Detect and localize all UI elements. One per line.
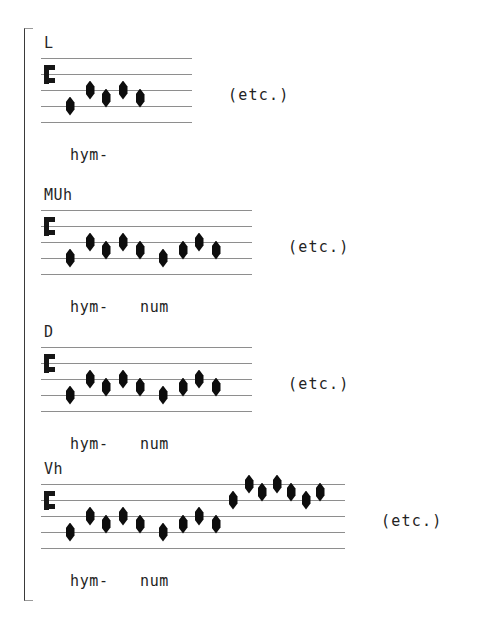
- staff-line: [41, 106, 192, 107]
- staff-line: [41, 210, 252, 211]
- lyric-syllable: hym-: [70, 148, 109, 163]
- lyric-syllable: num: [140, 437, 169, 452]
- clef-arm-bottom: [47, 230, 55, 235]
- staff-line: [41, 411, 252, 412]
- staff-line: [41, 58, 192, 59]
- staff: [41, 58, 192, 122]
- staff-line: [41, 500, 345, 501]
- staff-line: [41, 363, 252, 364]
- staff-line: [41, 379, 252, 380]
- staff-line: [41, 347, 252, 348]
- c-clef-icon: [44, 217, 55, 236]
- lyric-syllable: num: [140, 574, 169, 589]
- staff-line: [41, 532, 345, 533]
- staff: [41, 210, 252, 274]
- lyric-syllable: hym-: [70, 437, 109, 452]
- staff-line: [41, 548, 345, 549]
- music-figure: Lhym-(etc.)MUhhym-num(etc.)Dhym-num(etc.…: [0, 0, 485, 626]
- c-clef-icon: [44, 354, 55, 373]
- staff-line: [41, 74, 192, 75]
- staff: [41, 347, 252, 411]
- etc-marker: (etc.): [288, 377, 349, 392]
- c-clef-icon: [44, 65, 55, 84]
- clef-arm-top: [47, 217, 55, 222]
- staff-line: [41, 90, 192, 91]
- lyric-syllable: hym-: [70, 300, 109, 315]
- staff-line: [41, 484, 345, 485]
- staff-line: [41, 274, 252, 275]
- system-bracket: [24, 28, 33, 601]
- lyric-syllable: num: [140, 300, 169, 315]
- staff-line: [41, 122, 192, 123]
- system-label: L: [44, 36, 54, 51]
- clef-arm-top: [47, 354, 55, 359]
- clef-arm-top: [47, 491, 55, 496]
- etc-marker: (etc.): [288, 240, 349, 255]
- etc-marker: (etc.): [381, 514, 442, 529]
- clef-arm-top: [47, 65, 55, 70]
- c-clef-icon: [44, 491, 55, 510]
- etc-marker: (etc.): [228, 88, 289, 103]
- clef-arm-bottom: [47, 504, 55, 509]
- lyric-syllable: hym-: [70, 574, 109, 589]
- system-label: Vh: [44, 462, 63, 477]
- staff-line: [41, 226, 252, 227]
- system-label: D: [44, 325, 54, 340]
- system-label: MUh: [44, 188, 73, 203]
- staff-line: [41, 242, 252, 243]
- clef-arm-bottom: [47, 78, 55, 83]
- clef-arm-bottom: [47, 367, 55, 372]
